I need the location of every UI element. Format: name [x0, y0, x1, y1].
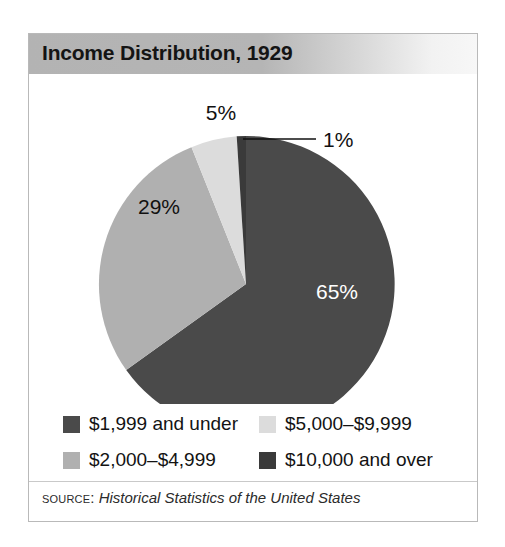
source-label: Source:: [42, 489, 95, 506]
legend-swatch-icon: [259, 452, 276, 469]
legend-item-5000-9999[interactable]: $5,000–$9,999: [259, 413, 412, 435]
source-title: Historical Statistics of the United Stat…: [99, 489, 361, 506]
pie-chart-plot-area: 65% 29% 5% 1%: [29, 74, 477, 404]
legend-item-10000-and-over[interactable]: $10,000 and over: [259, 449, 433, 471]
legend-item-1999-and-under[interactable]: $1,999 and under: [63, 413, 259, 435]
pie-label-29-percent: 29%: [138, 195, 180, 218]
chart-header-band: Income Distribution, 1929: [29, 34, 477, 74]
pie-chart-svg: 65% 29% 5% 1%: [29, 74, 479, 404]
source-divider: [29, 481, 477, 482]
legend-label: $10,000 and over: [285, 449, 433, 471]
legend-row: $2,000–$4,999 $10,000 and over: [63, 442, 477, 478]
legend-row: $1,999 and under $5,000–$9,999: [63, 406, 477, 442]
legend-swatch-icon: [259, 416, 276, 433]
legend-swatch-icon: [63, 452, 80, 469]
pie-label-65-percent: 65%: [316, 280, 358, 303]
source-note: Source:Historical Statistics of the Unit…: [42, 489, 360, 506]
legend-label: $2,000–$4,999: [89, 449, 216, 471]
pie-label-5-percent: 5%: [206, 101, 236, 124]
legend-label: $1,999 and under: [89, 413, 238, 435]
legend-swatch-icon: [63, 416, 80, 433]
legend-item-2000-4999[interactable]: $2,000–$4,999: [63, 449, 259, 471]
chart-figure: Income Distribution, 1929 65% 29% 5% 1% …: [28, 33, 478, 522]
pie-label-1-percent: 1%: [323, 128, 353, 151]
chart-legend: $1,999 and under $5,000–$9,999 $2,000–$4…: [29, 406, 477, 478]
legend-label: $5,000–$9,999: [285, 413, 412, 435]
page-title: Income Distribution, 1929: [42, 41, 293, 65]
